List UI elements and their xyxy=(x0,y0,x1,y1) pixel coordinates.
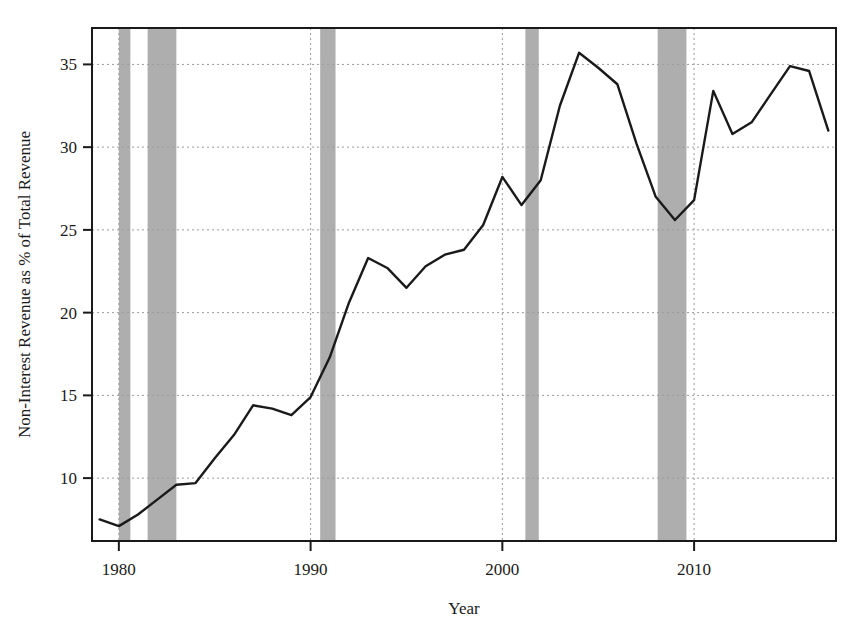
y-tick-label: 20 xyxy=(60,304,77,323)
y-tick-label: 10 xyxy=(60,469,77,488)
x-axis-title: Year xyxy=(448,599,480,618)
y-axis-group: 101520253035 xyxy=(60,55,92,488)
plot-area xyxy=(92,28,836,541)
y-axis-title: Non-Interest Revenue as % of Total Reven… xyxy=(15,131,34,438)
x-tick-label: 2000 xyxy=(485,560,519,579)
y-tick-label: 25 xyxy=(60,221,77,240)
y-tick-label: 30 xyxy=(60,138,77,157)
recession-band xyxy=(119,29,131,540)
x-tick-label: 1980 xyxy=(102,560,136,579)
x-tick-label: 2010 xyxy=(677,560,711,579)
x-tick-label: 1990 xyxy=(294,560,328,579)
x-axis-group: 1980199020002010 xyxy=(102,541,711,579)
y-tick-label: 35 xyxy=(60,55,77,74)
line-chart-figure: 1015202530351980199020002010YearNon-Inte… xyxy=(0,0,860,629)
recession-band xyxy=(320,29,335,540)
recession-band xyxy=(525,29,538,540)
y-tick-label: 15 xyxy=(60,386,77,405)
recession-band xyxy=(148,29,177,540)
recession-band xyxy=(658,29,687,540)
